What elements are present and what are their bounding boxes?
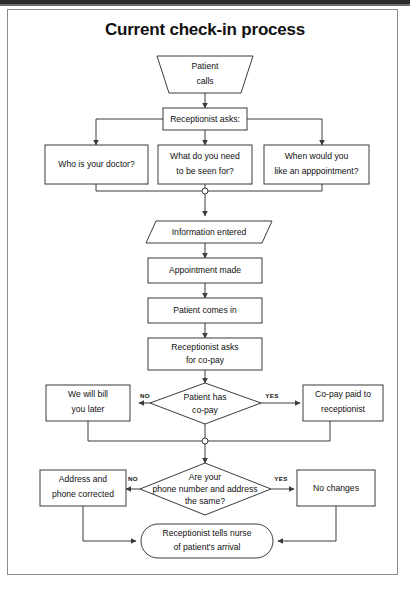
edge-nochanges-to-nurse: [278, 506, 336, 541]
edge-label-copay-yes: YES: [265, 392, 279, 399]
edge-billlater-merge: [88, 421, 205, 441]
node-decision-address-label-1: Are your: [189, 472, 222, 482]
node-appointment-made-label: Appointment made: [169, 265, 241, 275]
screenshot-page: Current check-in process: [0, 0, 410, 604]
node-copay-paid-label-2: receptionist: [321, 404, 366, 414]
node-question-appointment-label-2: like an apppointment?: [274, 166, 358, 176]
node-decision-address-label-3: the same?: [185, 496, 225, 506]
node-decision-copay-label-2: co-pay: [192, 405, 218, 415]
edge-addresscorrected-to-nurse: [83, 506, 136, 541]
node-patient-calls-label-2: calls: [196, 76, 213, 86]
node-address-corrected-label-1: Address and: [59, 474, 107, 484]
node-tells-nurse-label-2: of patient's arrival: [173, 542, 240, 552]
node-patient-comes-in-label: Patient comes in: [173, 305, 237, 315]
junction-dot-copay: [202, 438, 208, 444]
node-asks-for-copay-label-2: for co-pay: [186, 355, 225, 365]
junction-dot-questions: [202, 188, 208, 194]
node-bill-later-label-2: you later: [72, 404, 105, 414]
node-no-changes-label: No changes: [313, 483, 359, 493]
node-question-appointment-label-1: When would you: [285, 151, 349, 161]
node-tells-nurse-label-1: Receptionist tells nurse: [163, 528, 252, 538]
node-question-doctor-label: Who is your doctor?: [58, 159, 135, 169]
edge-copaypaid-merge: [205, 421, 330, 441]
flowchart-diagram: Patient calls Receptionist asks: Who is …: [0, 0, 410, 604]
node-decision-copay: [150, 383, 261, 424]
node-copay-paid-label-1: Co-pay paid to: [315, 389, 371, 399]
node-question-seen-for-label-2: to be seen for?: [176, 166, 234, 176]
node-question-seen-for-label-1: What do you need: [170, 151, 240, 161]
edge-label-copay-no: NO: [140, 392, 150, 399]
edge-asks-to-appointment: [247, 119, 322, 145]
node-decision-address-label-2: phone number and address: [152, 484, 257, 494]
edge-doctor-merge: [96, 184, 205, 191]
edge-label-address-no: NO: [128, 475, 138, 482]
node-patient-calls-label-1: Patient: [192, 61, 219, 71]
edge-asks-to-doctor: [96, 119, 163, 145]
node-address-corrected-label-2: phone corrected: [52, 489, 114, 499]
edge-appointment-merge: [205, 184, 322, 191]
node-asks-for-copay-label-1: Receptionist asks: [171, 342, 238, 352]
node-receptionist-asks-label: Receptionist asks:: [170, 114, 240, 124]
node-information-entered-label: Information entered: [172, 227, 247, 237]
node-decision-copay-label-1: Patient has: [184, 392, 227, 402]
node-bill-later-label-1: We will bill: [68, 389, 108, 399]
edge-label-address-yes: YES: [274, 475, 288, 482]
